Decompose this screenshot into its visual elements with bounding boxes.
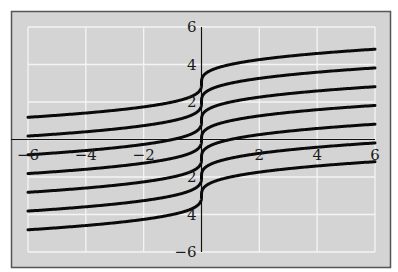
chart: −6−4−2246 64224−6: [0, 0, 398, 272]
x-tick-label: −6: [17, 146, 39, 164]
y-tick-label: 2: [187, 93, 197, 111]
x-tick-label: 2: [255, 146, 265, 164]
y-tick-label: 6: [187, 18, 197, 36]
x-tick-label: 4: [312, 146, 322, 164]
y-tick-label: 4: [187, 206, 197, 224]
y-tick-label: 4: [187, 56, 197, 74]
x-tick-label: 6: [370, 146, 380, 164]
y-tick-label: 2: [187, 168, 197, 186]
x-tick-label: −4: [75, 146, 97, 164]
x-tick-label: −2: [133, 146, 155, 164]
y-tick-label: −6: [174, 243, 196, 261]
